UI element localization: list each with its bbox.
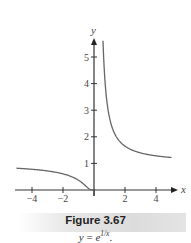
y-tick-label: 4 [84,78,89,89]
curve-left-branch [17,168,95,190]
y-tick-label: 1 [84,158,89,169]
curve-right-branch [103,41,172,158]
figure-equation: y = e1/x. [0,229,191,243]
x-tick-label: 4 [154,193,159,204]
equation-end: . [109,231,112,243]
y-tick-label: 2 [84,131,89,142]
x-tick-label: −2 [58,193,69,204]
x-tick-label: −4 [27,193,38,204]
y-tick-label: 3 [84,105,89,116]
figure-label: Figure 3.67 [0,214,191,226]
x-tick-label: 2 [123,193,128,204]
y-axis-label: y [90,24,96,36]
x-axis-label: x [180,183,186,195]
y-axis-arrow-icon [91,38,97,45]
x-axis-arrow-icon [171,187,178,193]
equation-equals: = [84,231,96,243]
y-tick-label: 5 [84,52,89,63]
y-ticks: 12345 [84,52,97,169]
